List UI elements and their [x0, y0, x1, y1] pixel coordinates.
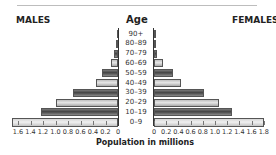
female-bar [154, 69, 173, 77]
age-group-label: 90+ [119, 30, 153, 38]
female-axis-tick [178, 121, 179, 125]
male-bar [12, 118, 118, 127]
header-rule [17, 5, 257, 6]
male-axis-tick [18, 121, 19, 125]
male-axis-tick [43, 121, 44, 125]
male-axis-line [118, 28, 119, 126]
female-axis-tick-label: 1.0 [210, 128, 220, 136]
male-axis-tick-label: 0.6 [75, 128, 85, 136]
female-axis-tick-label: 1.8 [259, 128, 269, 136]
male-axis-tick-label: 1.2 [38, 128, 48, 136]
male-axis-tick [93, 121, 94, 125]
female-bar [154, 50, 157, 58]
female-bar [154, 30, 156, 38]
female-axis-line [153, 28, 154, 126]
age-group-label: 30–39 [119, 88, 153, 96]
female-axis-tick [166, 121, 167, 125]
male-axis-tick-label: 0 [116, 128, 120, 136]
female-axis-tick-label: 0.8 [198, 128, 208, 136]
male-bar [102, 69, 118, 77]
male-bar [73, 89, 118, 97]
male-axis-tick [81, 121, 82, 125]
male-bar [41, 108, 118, 116]
male-bar [96, 79, 118, 87]
male-axis-tick [56, 121, 57, 125]
male-axis-tick [68, 121, 69, 125]
age-group-label: 10–19 [119, 108, 153, 116]
female-axis-tick [252, 121, 253, 125]
male-axis-tick-label: 0.4 [88, 128, 98, 136]
males-label: MALES [16, 15, 50, 25]
female-axis-tick [191, 121, 192, 125]
male-bar [56, 99, 118, 107]
female-bar [154, 108, 232, 116]
female-bar [154, 79, 181, 87]
female-bar [154, 118, 264, 127]
male-axis-tick-label: 1.6 [13, 128, 23, 136]
female-axis-tick [227, 121, 228, 125]
male-axis-tick-label: 1.4 [25, 128, 35, 136]
female-axis-tick [154, 121, 155, 125]
male-axis-tick [106, 121, 107, 125]
female-bar [154, 99, 219, 107]
age-label: Age [126, 14, 148, 25]
x-axis-label: Population in millions [96, 138, 194, 147]
females-label: FEMALES [232, 15, 276, 25]
age-group-label: 70–79 [119, 49, 153, 57]
female-axis-tick-label: 0.2 [161, 128, 171, 136]
female-axis-tick-label: 1.2 [222, 128, 232, 136]
female-axis-tick [203, 121, 204, 125]
male-axis-tick [31, 121, 32, 125]
male-axis-tick-label: 0.8 [63, 128, 73, 136]
age-group-label: 0–9 [119, 118, 153, 126]
female-axis-tick-label: 0.4 [173, 128, 183, 136]
female-axis-tick [239, 121, 240, 125]
age-group-label: 20–29 [119, 98, 153, 106]
male-bar [111, 59, 118, 67]
male-axis-tick-label: 1.0 [50, 128, 60, 136]
female-axis-tick-label: 1.6 [246, 128, 256, 136]
age-group-label: 50–59 [119, 69, 153, 77]
female-axis-tick-label: 0 [152, 128, 156, 136]
female-axis-tick [215, 121, 216, 125]
age-group-label: 40–49 [119, 79, 153, 87]
female-bar [154, 40, 156, 48]
age-group-label: 80–89 [119, 39, 153, 47]
female-bar [154, 89, 204, 97]
female-axis-tick [264, 121, 265, 125]
female-axis-tick-label: 0.6 [185, 128, 195, 136]
age-group-label: 60–69 [119, 59, 153, 67]
male-axis-tick-label: 0.2 [100, 128, 110, 136]
female-bar [154, 59, 163, 67]
female-axis-tick-label: 1.4 [234, 128, 244, 136]
